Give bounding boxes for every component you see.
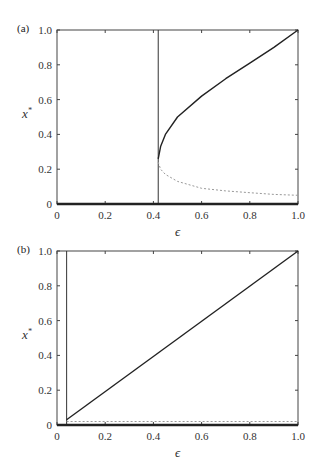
chart-panel-a: 00.20.40.60.81.000.20.40.60.81.0(a)x*ϵ — [17, 22, 305, 239]
x-tick-label: 1.0 — [291, 430, 305, 442]
y-tick-label: 0.2 — [38, 384, 52, 396]
panel-label: (a) — [17, 22, 30, 35]
x-tick-label: 0 — [54, 430, 60, 442]
figure: 00.20.40.60.81.000.20.40.60.81.0(a)x*ϵ00… — [0, 0, 322, 471]
x-axis-label: ϵ — [175, 445, 181, 460]
x-tick-label: 0.2 — [98, 209, 112, 221]
chart-panel-b: 00.20.40.60.81.000.20.40.60.81.0(b)x*ϵ — [17, 243, 305, 460]
y-tick-label: 0.4 — [38, 349, 52, 361]
x-tick-label: 0.4 — [147, 209, 161, 221]
x-tick-label: 0.6 — [195, 209, 209, 221]
x-tick-label: 1.0 — [291, 209, 305, 221]
x-tick-label: 0.8 — [243, 209, 257, 221]
y-tick-label: 0.2 — [38, 163, 52, 175]
series-line — [158, 162, 298, 195]
series-line — [158, 30, 298, 159]
y-tick-label: 0 — [47, 419, 53, 431]
y-axis-label: x* — [21, 106, 32, 121]
x-tick-label: 0.6 — [195, 430, 209, 442]
series-line — [67, 251, 298, 420]
panel-label: (b) — [17, 243, 30, 256]
y-tick-label: 0 — [47, 198, 53, 210]
x-axis-label: ϵ — [175, 224, 181, 239]
y-axis-label: x* — [21, 327, 32, 342]
y-tick-label: 1.0 — [38, 245, 52, 257]
x-tick-label: 0.4 — [147, 430, 161, 442]
y-tick-label: 0.8 — [38, 59, 52, 71]
x-tick-label: 0.8 — [243, 430, 257, 442]
y-tick-label: 0.8 — [38, 280, 52, 292]
x-tick-label: 0.2 — [98, 430, 112, 442]
y-tick-label: 0.4 — [38, 128, 52, 140]
y-tick-label: 0.6 — [38, 315, 52, 327]
x-tick-label: 0 — [54, 209, 60, 221]
y-tick-label: 0.6 — [38, 94, 52, 106]
y-tick-label: 1.0 — [38, 24, 52, 36]
